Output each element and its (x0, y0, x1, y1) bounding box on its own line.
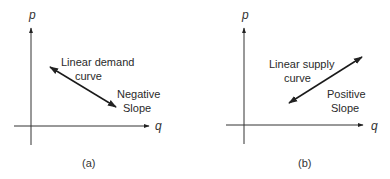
positive-slope-label-line2: Slope (331, 102, 359, 114)
panel-b-supply: p q Linear supply curve Positive Slope (… (226, 8, 378, 169)
supply-curve-label-line1: Linear supply (269, 58, 335, 70)
y-axis-label-b: p (241, 8, 249, 22)
x-axis-label-a: q (155, 119, 162, 133)
demand-curve-label-line2: curve (75, 70, 102, 82)
diagram-canvas: p q Linear demand curve Negative Slope (… (0, 0, 390, 179)
caption-b: (b) (298, 157, 311, 169)
panel-a-demand: p q Linear demand curve Negative Slope (… (14, 8, 162, 169)
x-axis-label-b: q (371, 119, 378, 133)
demand-curve-label-line1: Linear demand (61, 56, 134, 68)
positive-slope-label-line1: Positive (327, 88, 366, 100)
y-axis-label-a: p (28, 8, 36, 22)
negative-slope-label-line2: Slope (123, 102, 151, 114)
negative-slope-label-line1: Negative (117, 88, 160, 100)
caption-a: (a) (82, 157, 95, 169)
supply-curve-label-line2: curve (284, 72, 311, 84)
